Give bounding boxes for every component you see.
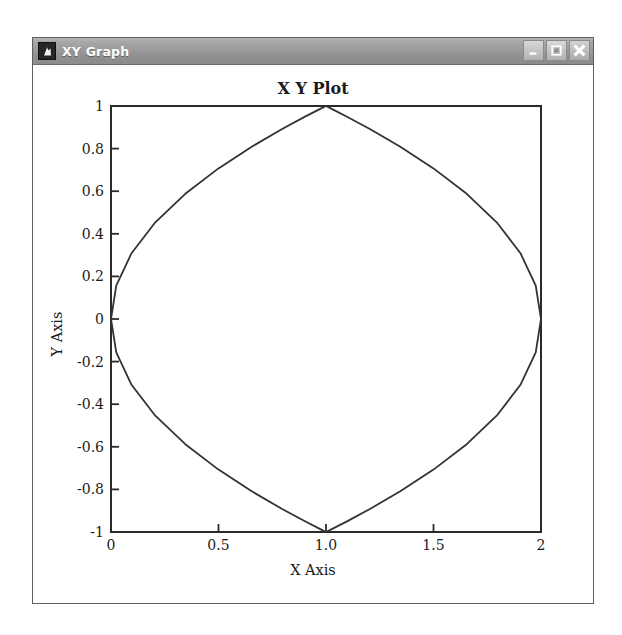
plot-frame xyxy=(111,106,541,532)
screen: XY Graph xyxy=(0,0,622,635)
maximize-button[interactable] xyxy=(546,40,567,61)
close-button[interactable] xyxy=(569,40,590,61)
window-titlebar[interactable]: XY Graph xyxy=(33,38,593,65)
xy-plot-figure: X Y Plot Y Axis X Axis 1 0.8 0.6 0.4 0.2… xyxy=(33,65,593,603)
window-client-area: X Y Plot Y Axis X Axis 1 0.8 0.6 0.4 0.2… xyxy=(33,65,593,603)
xy-graph-window: XY Graph xyxy=(32,37,594,604)
minimize-button[interactable] xyxy=(523,40,544,61)
window-title: XY Graph xyxy=(62,44,129,59)
plot-canvas xyxy=(33,65,593,603)
window-controls xyxy=(523,40,590,61)
app-icon xyxy=(38,42,56,60)
